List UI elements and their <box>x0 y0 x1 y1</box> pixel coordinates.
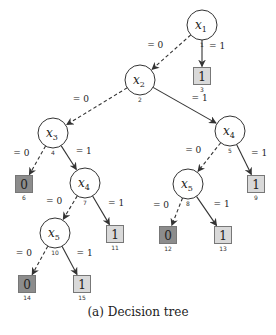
edge-7-10 <box>63 196 77 219</box>
edge-label: = 1 <box>192 93 208 103</box>
figure-caption: (a) Decision tree <box>0 305 276 319</box>
edge-4-6 <box>29 146 45 175</box>
edge-7-11 <box>93 196 110 225</box>
edge-label: = 0 <box>153 200 169 210</box>
decision-node-8: x58 <box>173 169 203 207</box>
leaf-node-11: 111 <box>107 226 124 251</box>
svg-text:1: 1 <box>78 278 86 292</box>
svg-text:13: 13 <box>219 245 227 252</box>
svg-text:6: 6 <box>22 194 26 201</box>
svg-text:0: 0 <box>164 229 172 243</box>
edge-label: = 0 <box>16 248 32 258</box>
svg-text:3: 3 <box>200 86 204 93</box>
edge-10-14 <box>32 246 48 274</box>
svg-text:8: 8 <box>186 200 190 207</box>
edge-label: = 1 <box>209 41 225 51</box>
leaf-node-14: 014 <box>19 276 36 301</box>
svg-text:1: 1 <box>219 229 227 243</box>
svg-text:7: 7 <box>83 199 87 206</box>
edge-label: = 1 <box>76 146 92 156</box>
svg-text:0: 0 <box>20 178 28 192</box>
edge-label: = 1 <box>77 248 93 258</box>
svg-text:1: 1 <box>252 178 260 192</box>
leaf-node-6: 06 <box>16 176 33 201</box>
svg-text:2: 2 <box>138 96 142 103</box>
svg-text:0: 0 <box>23 278 31 292</box>
svg-text:14: 14 <box>23 294 31 301</box>
nodes-layer: x11x2213x34x4506x47x5819x510111012113014… <box>16 10 265 301</box>
decision-node-2: x22 <box>125 65 155 103</box>
edge-4-7 <box>61 146 76 170</box>
edge-8-12 <box>172 198 183 226</box>
edge-label: = 0 <box>147 40 163 50</box>
svg-text:5: 5 <box>228 147 232 154</box>
edge-5-8 <box>198 143 221 172</box>
edge-label: = 1 <box>108 198 124 208</box>
svg-text:10: 10 <box>51 249 59 256</box>
edge-label: = 0 <box>185 145 201 155</box>
svg-text:12: 12 <box>164 245 172 252</box>
leaf-node-13: 113 <box>215 227 232 252</box>
edge-5-9 <box>237 144 252 174</box>
decision-node-5: x45 <box>215 116 245 154</box>
edge-label: = 1 <box>214 199 230 209</box>
svg-text:1: 1 <box>198 70 206 84</box>
svg-text:15: 15 <box>78 294 86 301</box>
edge-label: = 0 <box>46 196 62 206</box>
decision-node-10: x510 <box>40 218 70 256</box>
decision-tree-diagram: = 0= 1= 0= 1= 0= 1= 0= 1= 0= 1= 0= 1= 0=… <box>0 0 276 335</box>
leaf-node-9: 19 <box>248 176 265 201</box>
edge-label: = 0 <box>73 94 89 104</box>
edge-label: = 1 <box>251 148 267 158</box>
svg-text:1: 1 <box>111 228 119 242</box>
edge-label: = 0 <box>13 148 29 158</box>
svg-text:11: 11 <box>111 244 119 251</box>
svg-text:4: 4 <box>51 149 55 156</box>
leaf-node-12: 012 <box>160 227 177 252</box>
svg-text:9: 9 <box>254 194 258 201</box>
edge-10-15 <box>62 246 77 274</box>
leaf-node-15: 115 <box>74 276 91 301</box>
leaf-node-3: 13 <box>194 68 211 93</box>
svg-text:1: 1 <box>200 41 204 48</box>
